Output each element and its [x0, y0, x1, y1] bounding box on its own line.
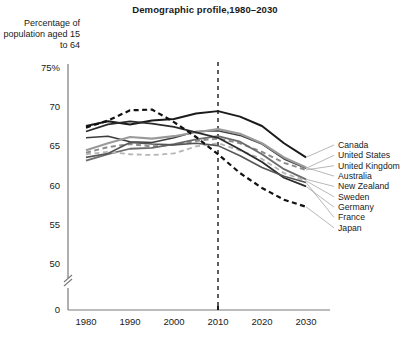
legend-leader-canada: [306, 145, 334, 157]
legend-item-france: France: [338, 212, 400, 222]
legend-leader-sweden: [306, 181, 334, 197]
legend-item-united-kingdom: United Kingdom: [338, 161, 400, 171]
chart-legend: CanadaUnited StatesUnited KingdomAustral…: [338, 140, 400, 233]
y-axis-tick-label: 60: [20, 180, 60, 191]
legend-item-sweden: Sweden: [338, 192, 400, 202]
legend-item-australia: Australia: [338, 171, 400, 181]
x-axis-tick-label: 2030: [286, 316, 326, 327]
legend-item-united-states: United States: [338, 150, 400, 160]
legend-item-canada: Canada: [338, 140, 400, 150]
y-axis-tick-label: 70: [20, 101, 60, 112]
legend-item-japan: Japan: [338, 223, 400, 233]
x-axis-tick-label: 1980: [66, 316, 106, 327]
legend-leader-new-zealand: [306, 179, 334, 186]
x-axis-tick-label: 2010: [198, 316, 238, 327]
legend-leader-australia: [306, 168, 334, 176]
y-axis-tick-label: 55: [20, 219, 60, 230]
y-axis-tick-label: 0: [20, 304, 60, 315]
demographic-profile-chart: Demographic profile,1980–2030 Percentage…: [0, 0, 410, 339]
legend-leader-france: [306, 182, 334, 217]
series-line-japan: [86, 110, 306, 207]
x-axis-tick-label: 1990: [110, 316, 150, 327]
legend-item-germany: Germany: [338, 202, 400, 212]
legend-leader-germany: [306, 186, 334, 207]
y-axis-tick-label: 50: [20, 258, 60, 269]
x-axis-tick-label: 2000: [154, 316, 194, 327]
legend-leader-japan: [306, 207, 334, 228]
y-axis-tick-label: 65: [20, 140, 60, 151]
y-axis-tick-label: 75%: [20, 62, 60, 73]
axis-break-mark: [64, 279, 72, 286]
x-axis-tick-label: 2020: [242, 316, 282, 327]
legend-item-new-zealand: New Zealand: [338, 181, 400, 191]
